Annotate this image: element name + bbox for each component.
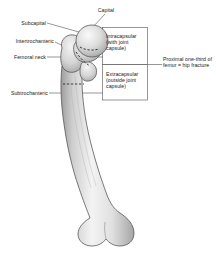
label-capital: Capital [84,7,128,13]
femoral-shaft [61,65,134,246]
anatomy-figure: Capital Subcapital Intertrochanteric Fem… [0,0,216,254]
label-proximal-third: Proximal one-third of femur = hip fractu… [163,56,215,68]
femoral-head [76,25,108,57]
femur-bone [61,25,134,246]
label-intracapsular: Intracapsular (with joint capsule) [106,33,146,52]
lesser-trochanter [80,61,97,81]
label-extracapsular: Extracapsular (outside joint capsule) [106,71,148,90]
label-intertrochanteric: Intertrochanteric [0,38,54,44]
label-femoral-neck: Femoral neck [2,54,46,60]
label-subtrochanteric: Subtrochanteric [2,90,48,96]
label-subcapital: Subcapital [2,20,46,26]
